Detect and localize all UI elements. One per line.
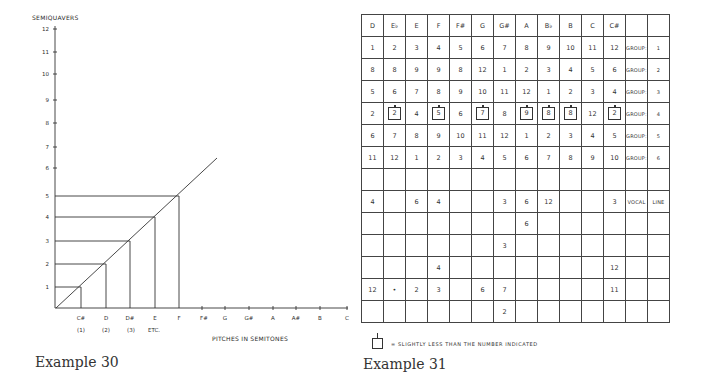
legend-text: = SLIGHTLY LESS THAN THE NUMBER INDICATE… xyxy=(391,341,538,347)
table-cell: 3 xyxy=(428,279,450,301)
table-cell xyxy=(428,235,450,257)
table-cell: 3 xyxy=(582,81,604,103)
table-cell xyxy=(494,169,516,191)
table-cell xyxy=(428,301,450,323)
table-cell: 8 xyxy=(384,59,406,81)
table-cell: 1 xyxy=(516,125,538,147)
legend: = SLIGHTLY LESS THAN THE NUMBER INDICATE… xyxy=(372,338,538,349)
table-cell: 7 xyxy=(494,279,516,301)
svg-text:ETC.: ETC. xyxy=(148,327,160,333)
table-cell: 11 xyxy=(494,81,516,103)
table-row: 567891011121234GROUP:3 xyxy=(362,81,670,103)
svg-text:F#: F# xyxy=(200,315,208,321)
table-cell xyxy=(626,301,648,323)
table-cell xyxy=(538,213,560,235)
table-cell xyxy=(450,301,472,323)
table-cell: B xyxy=(560,15,582,37)
table-cell xyxy=(582,235,604,257)
table-cell xyxy=(604,213,626,235)
table-cell: 6 xyxy=(516,213,538,235)
example-30-caption: Example 30 xyxy=(35,354,119,370)
table-cell xyxy=(560,257,582,279)
table-cell: 6 xyxy=(384,81,406,103)
table-cell: 3 xyxy=(560,125,582,147)
table-cell: 4 xyxy=(362,191,384,213)
table-cell xyxy=(582,169,604,191)
table-cell: 8 xyxy=(362,59,384,81)
table-cell: 6 xyxy=(516,191,538,213)
table-cell: 4 xyxy=(582,125,604,147)
table-cell xyxy=(516,235,538,257)
table-cell: 4 xyxy=(604,81,626,103)
x-axis-label: PITCHES IN SEMITONES xyxy=(212,335,288,342)
table-cell: 12 xyxy=(538,191,560,213)
table-cell xyxy=(472,257,494,279)
svg-text:C: C xyxy=(345,315,349,321)
table-cell xyxy=(406,301,428,323)
example-31-table-panel: DE♭EFF#GG#AB♭BCC#123456789101112GROUP:18… xyxy=(355,0,706,387)
table-cell: 4 xyxy=(560,59,582,81)
svg-text:F: F xyxy=(177,315,180,321)
svg-text:9: 9 xyxy=(46,97,50,103)
table-cell: 9 xyxy=(582,147,604,169)
table-cell: 9 xyxy=(450,81,472,103)
table-cell: GROUP: xyxy=(626,37,648,59)
boxed-number: 7 xyxy=(476,107,489,120)
table-cell: 10 xyxy=(604,147,626,169)
svg-text:D#: D# xyxy=(126,315,135,321)
table-cell: 8 xyxy=(516,37,538,59)
table-cell: 5 xyxy=(582,59,604,81)
table-row: 12•236711 xyxy=(362,279,670,301)
table-cell: 8 xyxy=(406,125,428,147)
svg-text:10: 10 xyxy=(42,71,49,77)
table-cell: 4 xyxy=(648,103,670,125)
svg-text:2: 2 xyxy=(46,261,50,267)
table-cell: 2 xyxy=(384,103,406,125)
table-cell xyxy=(648,257,670,279)
table-cell xyxy=(626,213,648,235)
table-cell: 12 xyxy=(494,125,516,147)
svg-text:G: G xyxy=(223,315,227,321)
table-cell xyxy=(604,235,626,257)
svg-text:A#: A# xyxy=(292,315,301,321)
table-cell xyxy=(560,191,582,213)
table-cell: 7 xyxy=(538,147,560,169)
table-cell: 9 xyxy=(428,125,450,147)
svg-text:8: 8 xyxy=(46,120,50,126)
table-cell xyxy=(428,169,450,191)
table-cell xyxy=(626,257,648,279)
table-cell xyxy=(450,279,472,301)
table-cell: 4 xyxy=(428,257,450,279)
svg-text:(1): (1) xyxy=(77,327,85,333)
table-cell xyxy=(516,301,538,323)
table-cell: 12 xyxy=(516,81,538,103)
table-cell: 11 xyxy=(362,147,384,169)
table-row: 8899812123456GROUP:2 xyxy=(362,59,670,81)
boxed-number: 2 xyxy=(608,107,621,120)
boxed-number: 2 xyxy=(388,107,401,120)
table-cell xyxy=(560,279,582,301)
table-cell xyxy=(472,191,494,213)
table-cell: LINE xyxy=(648,191,670,213)
table-cell xyxy=(648,279,670,301)
table-header-row: DE♭EFF#GG#AB♭BCC# xyxy=(362,15,670,37)
table-cell: 6 xyxy=(472,279,494,301)
table-cell: GROUP: xyxy=(626,59,648,81)
table-cell xyxy=(648,235,670,257)
table-cell: 5 xyxy=(428,103,450,125)
table-cell: 2 xyxy=(538,125,560,147)
table-cell: 10 xyxy=(560,37,582,59)
boxed-number-icon xyxy=(372,338,383,349)
table-cell xyxy=(362,301,384,323)
table-cell xyxy=(560,213,582,235)
table-cell: D xyxy=(362,15,384,37)
svg-text:B: B xyxy=(318,315,322,321)
table-cell: 1 xyxy=(494,59,516,81)
table-cell xyxy=(406,169,428,191)
table-cell: F# xyxy=(450,15,472,37)
table-cell: 3 xyxy=(450,147,472,169)
table-cell xyxy=(560,235,582,257)
table-row: 3 xyxy=(362,235,670,257)
table-cell: 2 xyxy=(494,301,516,323)
table-cell xyxy=(648,169,670,191)
